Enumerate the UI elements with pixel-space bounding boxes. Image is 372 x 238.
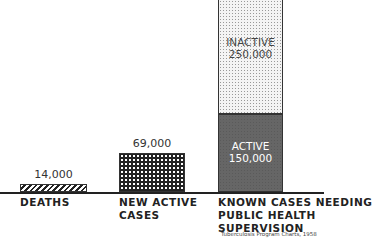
- category-line: NEW ACTIVE: [119, 196, 197, 209]
- source-note: Tuberculosis Program Charts, 1958: [221, 231, 317, 237]
- active-title: ACTIVE: [218, 140, 283, 152]
- category-label-deaths: DEATHS: [20, 196, 70, 209]
- active-value: 150,000: [218, 152, 283, 164]
- category-line: KNOWN CASES NEEDING: [218, 196, 372, 209]
- category-line: CASES: [119, 209, 197, 222]
- category-label-new-active: NEW ACTIVE CASES: [119, 196, 197, 222]
- category-label-known-cases: KNOWN CASES NEEDING PUBLIC HEALTH SUPERV…: [218, 196, 372, 235]
- inactive-value: 250,000: [218, 48, 283, 60]
- new-active-value-label: 69,000: [119, 137, 185, 150]
- inactive-label: INACTIVE 250,000: [218, 36, 283, 60]
- category-line: PUBLIC HEALTH: [218, 209, 372, 222]
- inactive-title: INACTIVE: [218, 36, 283, 48]
- new-active-cases-bar: [119, 153, 185, 192]
- deaths-value-label: 14,000: [20, 168, 87, 181]
- deaths-bar: [20, 184, 87, 192]
- active-label: ACTIVE 150,000: [218, 140, 283, 164]
- baseline-axis: [0, 192, 324, 194]
